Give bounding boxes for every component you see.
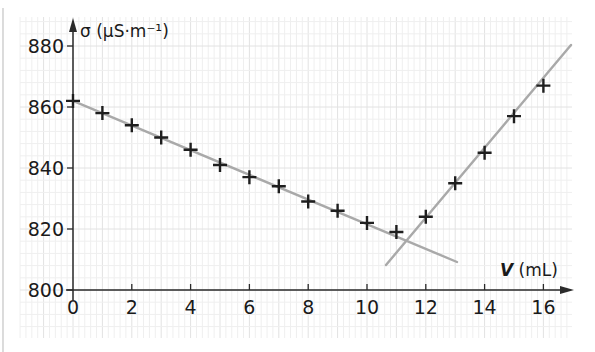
x-tick-label: 14 [473,296,497,318]
x-tick-label: 0 [67,296,79,318]
x-tick-label: 12 [414,296,438,318]
y-tick-label: 820 [28,218,64,240]
x-axis-title: V (mL) [500,260,558,280]
x-tick-label: 10 [355,296,379,318]
x-tick-label: 8 [302,296,314,318]
plus-marker-icon [331,204,345,218]
plus-marker-icon [125,118,139,132]
x-tick-label: 6 [243,296,255,318]
y-tick-label: 880 [28,35,64,57]
y-axis-title: σ (µS·m⁻¹) [80,21,169,41]
x-axis-unit: (mL) [513,260,558,280]
x-tick-label: 4 [185,296,197,318]
chart-canvas: σ (µS·m⁻¹) V (mL) 0246810121416800820840… [0,0,595,352]
plus-marker-icon [154,131,168,145]
plus-marker-icon [66,94,80,108]
y-axis-arrow-icon [69,18,77,32]
x-tick-label: 2 [126,296,138,318]
plus-marker-icon [95,106,109,120]
plus-marker-icon [360,216,374,230]
x-tick-label: 16 [531,296,555,318]
plus-marker-icon [389,225,403,239]
plus-marker-icon [536,79,550,93]
plus-marker-icon [478,146,492,160]
plus-marker-icon [507,109,521,123]
plus-marker-icon [184,143,198,157]
y-tick-label: 800 [28,279,64,301]
plus-marker-icon [272,179,286,193]
y-tick-label: 860 [28,96,64,118]
y-tick-label: 840 [28,157,64,179]
